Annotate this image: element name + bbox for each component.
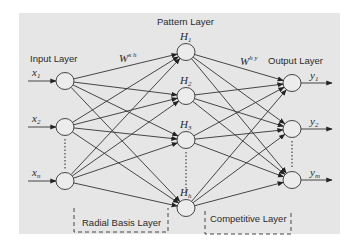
output-layer-label: Output Layer	[268, 55, 323, 66]
radial-basis-layer-label: Radial Basis Layer	[82, 217, 161, 228]
output-node	[283, 75, 301, 92]
input-layer-label: Input Layer	[30, 53, 78, 64]
input-node	[56, 173, 74, 190]
pattern-layer-label: Pattern Layer	[157, 16, 214, 27]
input-node	[56, 73, 74, 90]
input-node	[56, 119, 74, 136]
hidden-node	[177, 88, 195, 105]
output-node	[283, 172, 301, 189]
pnn-diagram: Input Layer Pattern Layer Output Layer R…	[0, 0, 359, 248]
hidden-node	[177, 44, 195, 61]
output-node	[283, 121, 301, 138]
hidden-node	[177, 200, 195, 217]
competitive-layer-label: Competitive Layer	[210, 213, 287, 224]
hidden-node	[177, 132, 195, 149]
